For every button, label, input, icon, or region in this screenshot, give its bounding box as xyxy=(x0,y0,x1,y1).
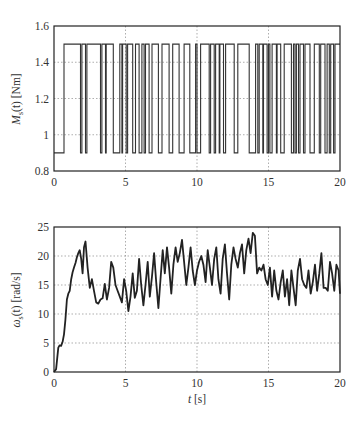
y-tick-label: 10 xyxy=(38,308,50,320)
x-tick-label: 20 xyxy=(334,377,346,389)
y-tick-label: 1.2 xyxy=(35,93,50,105)
speed-x-tick-labels: 05101520 xyxy=(51,377,346,389)
speed-y-tick-labels: 0510152025 xyxy=(38,221,50,378)
x-tick-label: 0 xyxy=(51,377,57,389)
x-tick-label: 5 xyxy=(123,377,129,389)
y-tick-label: 1 xyxy=(43,129,49,141)
y-tick-label: 5 xyxy=(43,337,49,349)
speed-plot-grid xyxy=(54,227,340,372)
x-tick-label: 0 xyxy=(51,176,57,188)
x-tick-label: 10 xyxy=(191,377,203,389)
speed-y-axis-label: ωs(t) [rad/s] xyxy=(10,273,25,328)
y-tick-label: 15 xyxy=(38,279,50,291)
x-tick-label: 10 xyxy=(191,176,203,188)
y-tick-label: 25 xyxy=(38,221,50,233)
time-x-axis-label: t [s] xyxy=(188,393,206,405)
figure: 0.811.21.41.6 05101520 Ms(t) [Nm] 051015… xyxy=(0,0,363,424)
y-tick-label: 20 xyxy=(38,250,50,262)
y-tick-label: 0.8 xyxy=(35,165,50,177)
torque-x-tick-labels: 05101520 xyxy=(51,176,346,188)
torque-plot: 0.811.21.41.6 05101520 Ms(t) [Nm] xyxy=(10,20,346,188)
torque-y-tick-labels: 0.811.21.41.6 xyxy=(35,20,50,177)
y-tick-label: 0 xyxy=(43,366,49,378)
x-tick-label: 15 xyxy=(263,176,275,188)
x-tick-label: 5 xyxy=(123,176,129,188)
x-tick-label: 15 xyxy=(263,377,275,389)
torque-y-axis-label: Ms(t) [Nm] xyxy=(10,73,25,125)
x-tick-label: 20 xyxy=(334,176,346,188)
y-tick-label: 1.4 xyxy=(35,56,50,68)
speed-trace xyxy=(54,233,340,372)
y-tick-label: 1.6 xyxy=(35,20,50,32)
speed-plot: 0510152025 05101520 ωs(t) [rad/s] t [s] xyxy=(10,221,346,405)
